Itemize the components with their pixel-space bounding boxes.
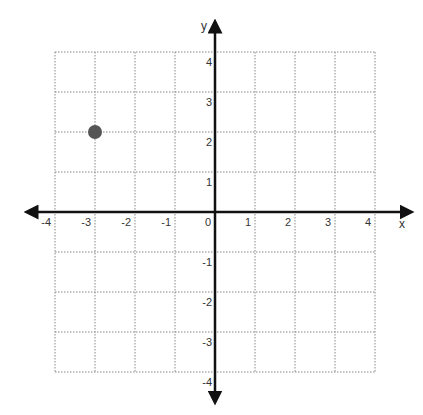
x-tick-label: 4 <box>365 216 371 228</box>
y-tick-label: 4 <box>206 56 212 68</box>
x-tick-label: 3 <box>325 216 331 228</box>
axes <box>31 26 407 398</box>
y-tick-label: 3 <box>206 96 212 108</box>
y-axis-label: y <box>201 19 207 33</box>
y-tick-label: -2 <box>202 296 212 308</box>
x-tick-label: -4 <box>41 216 51 228</box>
tick-labels: -4-3-2-101234-4-3-2-11234 <box>41 56 371 388</box>
x-tick-label: 2 <box>285 216 291 228</box>
y-tick-label: -1 <box>202 256 212 268</box>
plotted-point <box>88 125 102 139</box>
x-tick-label: 0 <box>205 216 211 228</box>
y-tick-label: 2 <box>206 136 212 148</box>
y-tick-label: 1 <box>206 176 212 188</box>
x-tick-label: 1 <box>245 216 251 228</box>
y-tick-label: -3 <box>202 336 212 348</box>
x-tick-label: -1 <box>161 216 171 228</box>
data-points <box>88 125 102 139</box>
x-tick-label: -2 <box>121 216 131 228</box>
coordinate-plane: -4-3-2-101234-4-3-2-11234 x y <box>0 0 423 415</box>
x-axis-label: x <box>399 217 405 231</box>
y-tick-label: -4 <box>202 376 212 388</box>
x-tick-label: -3 <box>81 216 91 228</box>
